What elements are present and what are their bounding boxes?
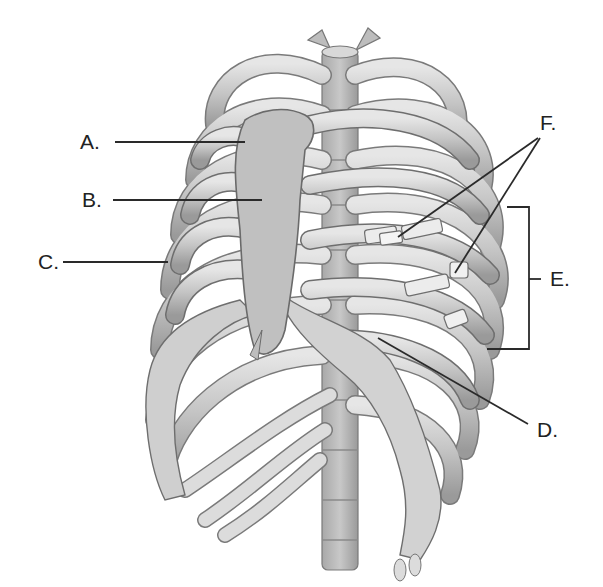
label-d: D. <box>537 419 558 440</box>
rib-cage-diagram: A. B. C. D. E. F. <box>0 0 603 587</box>
label-b: B. <box>82 189 102 210</box>
label-a: A. <box>80 131 100 152</box>
label-e: E. <box>550 268 570 289</box>
false-floating-ribs <box>185 395 330 535</box>
label-c: C. <box>38 251 59 272</box>
rib-cage-illustration <box>0 0 603 587</box>
label-f: F. <box>540 112 556 133</box>
